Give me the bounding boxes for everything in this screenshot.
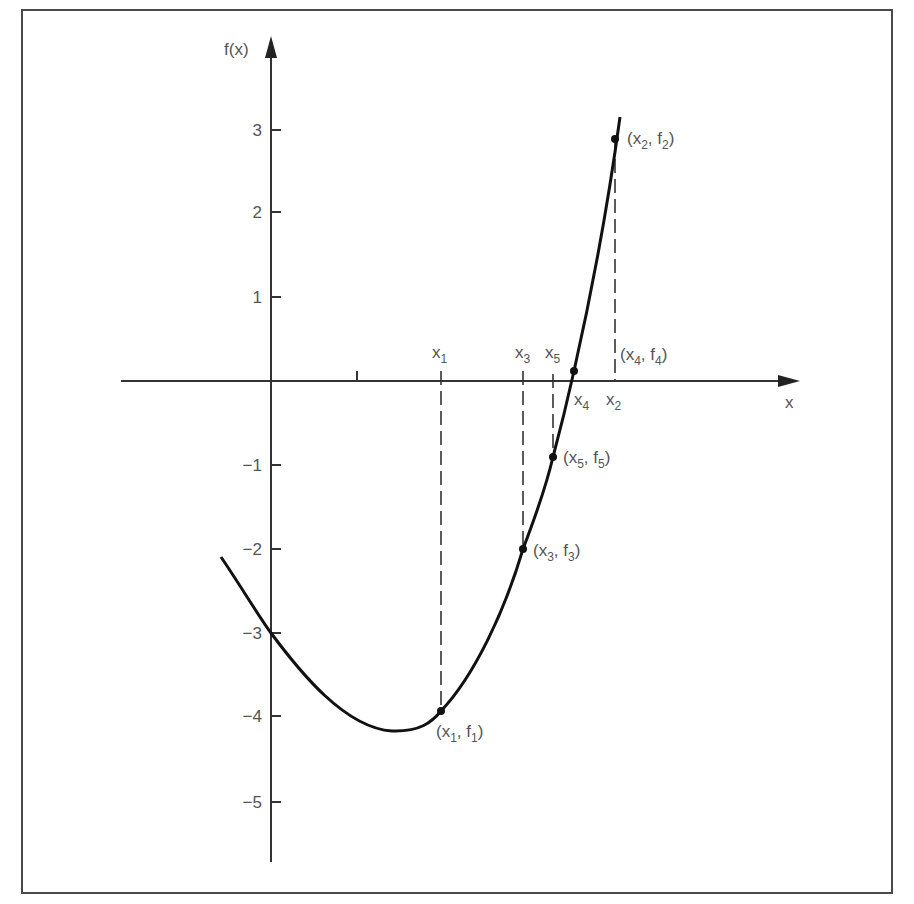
svg-text:−4: −4	[243, 707, 262, 726]
x-axis-arrow-icon	[778, 375, 800, 387]
y-axis-arrow-icon	[265, 36, 277, 58]
point-labels: (x1, f1) (x2, f2) (x3, f3) (x4, f4) (x5,…	[436, 129, 674, 745]
marker-x5: x5	[545, 343, 561, 366]
marker-x3: x3	[515, 343, 531, 366]
svg-text:2: 2	[253, 203, 262, 222]
point-x2	[611, 135, 619, 143]
y-tick-labels: 3 2 1 −1 −2 −3 −4 −5	[243, 121, 262, 812]
y-ticks	[271, 130, 281, 802]
point-x1	[437, 707, 445, 715]
svg-text:1: 1	[253, 288, 262, 307]
dashed-guides	[441, 139, 615, 711]
point-x5	[549, 453, 557, 461]
function-curve	[221, 117, 620, 731]
marker-x2: x2	[606, 390, 622, 413]
label-p2: (x2, f2)	[627, 129, 674, 152]
svg-text:3: 3	[253, 121, 262, 140]
y-axis-label: f(x)	[224, 40, 249, 59]
point-x3	[519, 545, 527, 553]
svg-text:−3: −3	[243, 624, 262, 643]
svg-text:−1: −1	[243, 456, 262, 475]
label-p3: (x3, f3)	[533, 541, 580, 564]
label-p1: (x1, f1)	[436, 722, 483, 745]
svg-text:−2: −2	[243, 540, 262, 559]
label-p5: (x5, f5)	[563, 448, 610, 471]
point-x4	[570, 367, 578, 375]
iterate-points	[437, 135, 619, 715]
x-axis-label: x	[785, 393, 794, 412]
label-p4: (x4, f4)	[620, 345, 667, 368]
marker-x4: x4	[574, 390, 590, 413]
svg-text:−5: −5	[243, 793, 262, 812]
marker-x1: x1	[432, 343, 448, 366]
function-plot: 3 2 1 −1 −2 −3 −4 −5 f(x) x x1 x3 x5 x4 …	[0, 0, 914, 904]
x-marker-labels: x1 x3 x5 x4 x2	[432, 343, 622, 413]
